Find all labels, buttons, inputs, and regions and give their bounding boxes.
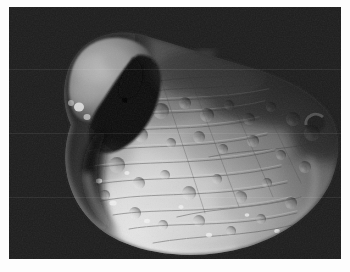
photograph-plate bbox=[9, 7, 341, 259]
photograph-frame: Grayscale spacecraft photograph of Phobo… bbox=[0, 0, 350, 272]
phobos-image bbox=[9, 7, 341, 259]
